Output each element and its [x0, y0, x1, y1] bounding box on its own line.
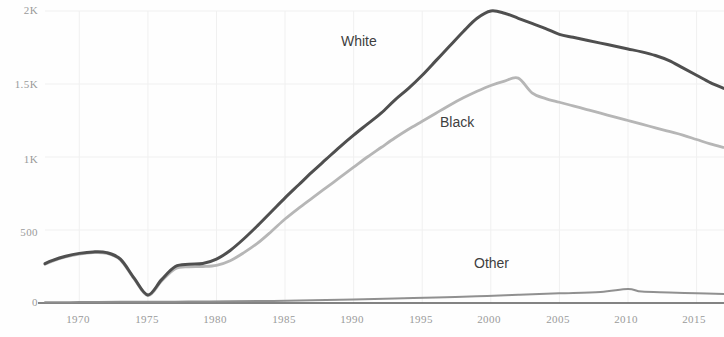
- series-annotation-white: White: [341, 33, 377, 49]
- x-tick-label-1970: 1970: [48, 313, 108, 325]
- series-annotation-other: Other: [474, 255, 509, 271]
- x-tick-label-2000: 2000: [459, 313, 519, 325]
- x-tick-label-1980: 1980: [185, 313, 245, 325]
- x-tick-label-1995: 1995: [391, 313, 451, 325]
- x-tick-label-2015: 2015: [664, 313, 724, 325]
- line-chart: 2K 1.5K 1K 500 0 1970 1975 1980 1985 199…: [0, 0, 724, 337]
- series-annotation-black: Black: [440, 114, 474, 130]
- gridlines: [45, 11, 724, 303]
- x-tick-label-1985: 1985: [254, 313, 314, 325]
- x-tick-label-1990: 1990: [322, 313, 382, 325]
- series-line-white: [45, 11, 724, 295]
- x-tick-label-1975: 1975: [117, 313, 177, 325]
- x-tick-label-2010: 2010: [596, 313, 656, 325]
- plot-area: [0, 0, 724, 337]
- x-tick-label-2005: 2005: [528, 313, 588, 325]
